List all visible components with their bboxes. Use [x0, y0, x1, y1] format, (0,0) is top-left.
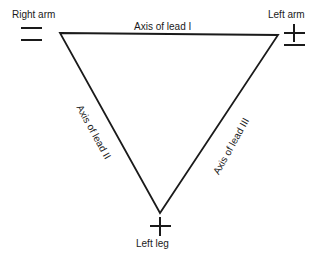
vertex-label-left-arm: Left arm — [268, 9, 305, 21]
vertex-label-left-leg: Left leg — [136, 238, 169, 250]
side-label-axis-lead-1: Axis of lead I — [134, 21, 191, 33]
einthoven-triangle-figure: Right arm Left arm Left leg Axis of lead… — [0, 0, 322, 258]
plus-vertical-bar-icon — [293, 24, 295, 42]
vertex-label-right-arm: Right arm — [12, 9, 55, 21]
polarity-marker-right-arm-minus — [21, 25, 43, 45]
plus-vertical-bar-icon — [159, 217, 161, 236]
minus-bar-icon — [284, 44, 305, 46]
minus-bar-upper-icon — [21, 27, 42, 29]
minus-bar-lower-icon — [21, 39, 42, 41]
polarity-marker-left-arm-plus-minus — [284, 24, 306, 48]
polarity-marker-left-leg-plus — [150, 217, 172, 237]
